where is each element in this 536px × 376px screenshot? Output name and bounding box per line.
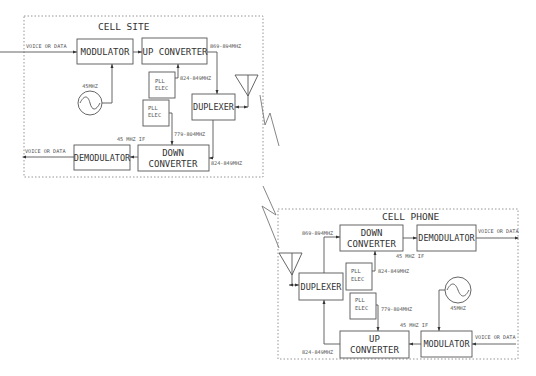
phone-demodulator-label: DEMODULATOR <box>418 233 475 243</box>
phone-if-rx-label: 45 MHZ IF <box>396 253 424 259</box>
phone-pll2-freq-label: 779-804MHZ <box>381 306 412 312</box>
connector-line <box>324 300 340 344</box>
site-voice-out-label: VOICE OR DATA <box>25 148 66 154</box>
site-pll1-label-b: ELEC <box>155 85 168 91</box>
arrow-icon <box>216 90 219 94</box>
connector-line <box>209 120 213 158</box>
cell-site-group: CELL SITE VOICE OR DATA MODULATOR UP CON… <box>0 16 263 177</box>
site-modulator-label: MODULATOR <box>81 47 130 57</box>
phone-voice-out-label: VOICE OR DATA <box>478 228 519 234</box>
cell-site-title: CELL SITE <box>98 21 150 32</box>
arrow-icon <box>73 51 77 54</box>
phone-up-converter-label-2: CONVERTER <box>350 345 399 355</box>
phone-modulator-label: MODULATOR <box>423 339 470 349</box>
site-pll2-freq-label: 779-804MHZ <box>174 131 205 137</box>
arrow-icon <box>22 156 26 159</box>
phone-voice-in-label: VOICE OR DATA <box>475 334 516 340</box>
cellular-block-diagram: CELL SITE VOICE OR DATA MODULATOR UP CON… <box>0 0 536 376</box>
arrow-icon <box>244 106 248 109</box>
arrow-icon <box>413 237 417 240</box>
site-pll2-label-b: ELEC <box>148 112 161 118</box>
connector-line <box>207 52 217 94</box>
phone-pll1-freq-label: 824-849MHZ <box>378 268 409 274</box>
phone-down-converter-label-1: DOWN <box>361 228 383 238</box>
arrow-icon <box>377 327 380 331</box>
arrow-icon <box>111 64 114 68</box>
arrow-icon <box>289 284 293 287</box>
site-duplexer-label: DUPLEXER <box>193 102 235 112</box>
cell-phone-group: CELL PHONE DOWN CONVERTER 869-894MHZ 45 … <box>278 209 519 359</box>
arrow-icon <box>235 106 239 109</box>
arrow-icon <box>438 327 441 331</box>
phone-up-converter-label-1: UP <box>369 334 380 344</box>
arrow-icon <box>374 251 377 255</box>
site-pll1-label-a: PLL <box>155 78 166 84</box>
arrow-icon <box>323 300 326 304</box>
site-antenna-icon <box>235 75 258 96</box>
phone-if-tx-label: 45 MHZ IF <box>400 322 428 328</box>
phone-duplexer-label: DUPLEXER <box>301 282 343 292</box>
phone-pll2-label-b: ELEC <box>355 305 368 311</box>
phone-osc-label: 45MHZ <box>450 305 466 311</box>
cell-phone-title: CELL PHONE <box>382 211 439 222</box>
phone-tx-band-label: 824-849MHZ <box>302 349 333 355</box>
phone-pll1-label-b: ELEC <box>351 276 364 282</box>
site-down-converter-label-2: CONVERTER <box>149 159 198 169</box>
arrow-icon <box>472 343 476 346</box>
arrow-icon <box>130 156 134 159</box>
phone-antenna-icon <box>279 253 302 275</box>
site-rx-band-label: 824-849MHZ <box>211 160 242 166</box>
connector-line <box>102 64 112 103</box>
rf-link-bolt-icon <box>262 186 279 248</box>
site-pll2-label-a: PLL <box>148 105 159 111</box>
arrow-icon <box>295 284 299 287</box>
arrow-icon <box>171 141 174 145</box>
arrow-icon <box>138 51 142 54</box>
connector-line <box>324 237 340 273</box>
site-osc-label: 45MHZ <box>82 83 98 89</box>
phone-pll2-label-a: PLL <box>355 297 366 303</box>
connector-line <box>439 290 445 331</box>
site-down-converter-label-1: DOWN <box>162 148 184 158</box>
phone-rx-band-label: 869-894MHZ <box>302 230 333 236</box>
arrow-icon <box>336 236 340 239</box>
phone-down-converter-label-2: CONVERTER <box>347 239 396 249</box>
site-up-converter-label: UP CONVERTER <box>142 47 208 57</box>
site-tx-band-label: 869-894MHZ <box>210 43 241 49</box>
site-demodulator-label: DEMODULATOR <box>74 153 131 163</box>
voice-in-label: VOICE OR DATA <box>26 43 67 49</box>
arrow-icon <box>177 64 180 68</box>
arrow-icon <box>409 343 413 346</box>
phone-pll1-label-a: PLL <box>351 268 362 274</box>
site-pll1-freq-label: 824-849MHZ <box>180 75 211 81</box>
site-if-label: 45 MHZ IF <box>117 136 145 142</box>
